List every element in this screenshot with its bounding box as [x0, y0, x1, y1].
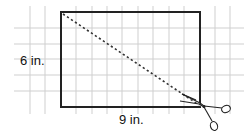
height-label: 6 in.: [20, 53, 45, 68]
scissors-icon: [180, 94, 231, 131]
grid-lines: [14, 6, 244, 114]
rectangle-cut-diagram: 6 in. 9 in.: [0, 0, 251, 138]
width-label: 9 in.: [119, 112, 144, 127]
